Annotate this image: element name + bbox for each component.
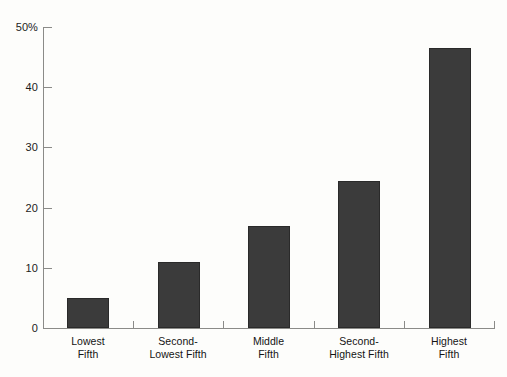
y-tick-label-50: 50%: [0, 22, 38, 33]
bar-chart: 50% 40 30 20 10 0 Lowest Fifth Second- L…: [0, 0, 507, 377]
y-tick-label-40-wrap: 40: [0, 82, 38, 93]
x-tick-1: [133, 321, 134, 329]
category-label-0: Lowest Fifth: [43, 335, 133, 361]
category-label-3-line-1: Highest Fifth: [314, 348, 404, 361]
y-axis-line: [43, 27, 44, 329]
x-tick-2: [223, 321, 224, 329]
y-tick-label-50-wrap: 50%: [0, 22, 38, 33]
y-tick-50: [43, 27, 52, 28]
category-label-4: Highest Fifth: [404, 335, 494, 361]
bar-middle-fifth: [248, 226, 290, 328]
y-tick-10: [43, 268, 52, 269]
y-tick-label-0: 0: [0, 323, 38, 334]
category-label-2: Middle Fifth: [223, 335, 314, 361]
category-label-0-line-1: Fifth: [43, 348, 133, 361]
x-tick-5: [494, 321, 495, 329]
y-tick-label-20: 20: [0, 203, 38, 214]
bar-second-highest-fifth: [338, 181, 380, 328]
y-tick-label-10-wrap: 10: [0, 263, 38, 274]
category-label-1-line-0: Second-: [133, 335, 223, 348]
category-label-3-line-0: Second-: [314, 335, 404, 348]
category-label-3: Second- Highest Fifth: [314, 335, 404, 361]
y-tick-label-20-wrap: 20: [0, 203, 38, 214]
bar-highest-fifth: [429, 48, 471, 328]
category-label-4-line-1: Fifth: [404, 348, 494, 361]
category-label-4-line-0: Highest: [404, 335, 494, 348]
bar-lowest-fifth: [67, 298, 109, 328]
x-axis-line: [43, 328, 495, 329]
y-tick-40: [43, 87, 52, 88]
category-label-1-line-1: Lowest Fifth: [133, 348, 223, 361]
category-label-2-line-0: Middle: [223, 335, 314, 348]
bar-second-lowest-fifth: [158, 262, 200, 328]
y-tick-20: [43, 208, 52, 209]
x-tick-3: [314, 321, 315, 329]
y-tick-label-30-wrap: 30: [0, 142, 38, 153]
y-tick-label-10: 10: [0, 263, 38, 274]
category-label-2-line-1: Fifth: [223, 348, 314, 361]
y-tick-label-40: 40: [0, 82, 38, 93]
y-tick-label-0-wrap: 0: [0, 323, 38, 334]
category-label-1: Second- Lowest Fifth: [133, 335, 223, 361]
x-tick-4: [404, 321, 405, 329]
y-tick-30: [43, 147, 52, 148]
y-tick-label-30: 30: [0, 142, 38, 153]
category-label-0-line-0: Lowest: [43, 335, 133, 348]
